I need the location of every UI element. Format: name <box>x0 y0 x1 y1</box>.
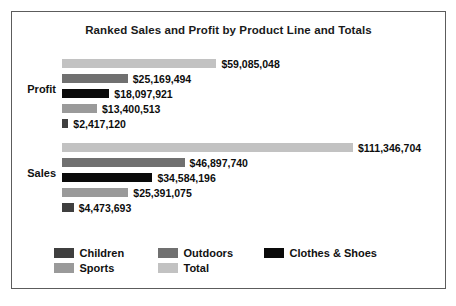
group-label-sales: Sales <box>12 167 56 179</box>
bar-total[interactable] <box>62 59 216 68</box>
group-label-profit: Profit <box>12 83 56 95</box>
bar-outdoors[interactable] <box>62 158 185 167</box>
legend-row: Sports Total <box>54 262 404 274</box>
legend-label: Sports <box>80 262 115 274</box>
legend-swatch-icon <box>264 248 284 258</box>
legend-swatch-icon <box>54 263 74 273</box>
bar-row[interactable]: $25,391,075 <box>62 185 445 200</box>
bar-outdoors[interactable] <box>62 74 128 83</box>
chart-frame: Ranked Sales and Profit by Product Line … <box>11 11 446 289</box>
bar-value-label: $13,400,513 <box>102 103 160 115</box>
legend-row: Children Outdoors Clothes & Shoes <box>54 247 404 259</box>
bar-rows-profit: $59,085,048 $25,169,494 $18,097,921 $13,… <box>62 56 445 131</box>
plot-area: Profit $59,085,048 $25,169,494 $18,097,9… <box>12 52 445 238</box>
bar-children[interactable] <box>62 119 68 128</box>
bar-row[interactable]: $18,097,921 <box>62 86 445 101</box>
bar-value-label: $18,097,921 <box>114 88 172 100</box>
legend-item-clothes-and-shoes[interactable]: Clothes & Shoes <box>264 247 404 259</box>
chart-legend: Children Outdoors Clothes & Shoes Sports… <box>12 247 445 274</box>
legend-item-sports[interactable]: Sports <box>54 262 158 274</box>
bar-row[interactable]: $2,417,120 <box>62 116 445 131</box>
legend-label: Children <box>80 247 125 259</box>
legend-swatch-icon <box>158 248 178 258</box>
legend-swatch-icon <box>54 248 74 258</box>
bar-row[interactable]: $25,169,494 <box>62 71 445 86</box>
bar-rows-sales: $111,346,704 $46,897,740 $34,584,196 $25… <box>62 140 445 215</box>
bar-value-label: $4,473,693 <box>79 202 132 214</box>
bar-value-label: $59,085,048 <box>221 58 279 70</box>
bar-row[interactable]: $111,346,704 <box>62 140 445 155</box>
bar-sports[interactable] <box>62 104 97 113</box>
bar-total[interactable] <box>62 143 353 152</box>
legend-label: Clothes & Shoes <box>290 247 377 259</box>
bar-value-label: $2,417,120 <box>73 118 126 130</box>
legend-item-total[interactable]: Total <box>158 262 264 274</box>
bar-clothes-and-shoes[interactable] <box>62 173 152 182</box>
bar-row[interactable]: $4,473,693 <box>62 200 445 215</box>
legend-item-children[interactable]: Children <box>54 247 158 259</box>
bar-value-label: $111,346,704 <box>358 142 421 154</box>
bar-value-label: $25,169,494 <box>133 73 191 85</box>
bar-sports[interactable] <box>62 188 128 197</box>
bar-clothes-and-shoes[interactable] <box>62 89 109 98</box>
bar-value-label: $46,897,740 <box>190 157 248 169</box>
legend-label: Total <box>184 262 209 274</box>
bar-row[interactable]: $59,085,048 <box>62 56 445 71</box>
legend-label: Outdoors <box>184 247 234 259</box>
bar-row[interactable]: $13,400,513 <box>62 101 445 116</box>
bar-row[interactable]: $34,584,196 <box>62 170 445 185</box>
bar-value-label: $34,584,196 <box>157 172 215 184</box>
chart-title: Ranked Sales and Profit by Product Line … <box>12 24 445 36</box>
legend-item-outdoors[interactable]: Outdoors <box>158 247 264 259</box>
legend-swatch-icon <box>158 263 178 273</box>
bar-value-label: $25,391,075 <box>133 187 191 199</box>
bar-children[interactable] <box>62 203 74 212</box>
bar-row[interactable]: $46,897,740 <box>62 155 445 170</box>
